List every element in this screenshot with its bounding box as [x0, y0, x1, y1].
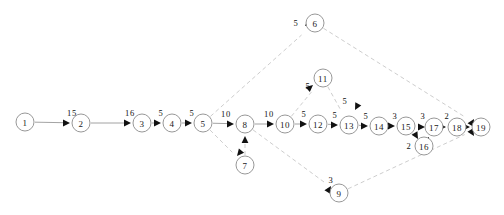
node-label-18: 18 [452, 123, 462, 133]
node-18[interactable]: 18 [448, 118, 466, 136]
arrow-to-8-from-7-icon [242, 136, 249, 143]
edge-5-to-6 [210, 35, 301, 116]
arrow-to-8-icon [227, 121, 234, 128]
node-label-14: 14 [374, 122, 384, 132]
edge-1-to-2 [35, 122, 63, 123]
edge-weight-3-to-4: 5 [159, 108, 164, 118]
node-label-15: 15 [401, 122, 411, 132]
node-label-12: 12 [313, 120, 323, 130]
edge-weight-13-to-14: 5 [364, 111, 369, 121]
edge-weight-5-to-6: 5 [294, 18, 299, 28]
edge-weight-15-to-16: 2 [407, 141, 412, 151]
node-label-13: 13 [344, 121, 354, 131]
edge-11-to-13 [328, 87, 340, 109]
edge-5-to-7 [210, 130, 232, 152]
edge-weight-14-to-15: 3 [393, 111, 398, 121]
arrow-to-12-icon [300, 121, 307, 128]
node-13[interactable]: 13 [340, 116, 358, 134]
node-9[interactable]: 9 [330, 184, 348, 202]
node-4[interactable]: 4 [163, 114, 181, 132]
node-5[interactable]: 5 [194, 114, 212, 132]
nodes-layer: 12345678910111213141516171819 [16, 14, 490, 202]
arrow-to-5-icon [185, 120, 192, 127]
node-3[interactable]: 3 [133, 114, 151, 132]
node-label-6: 6 [312, 19, 317, 29]
node-label-11: 11 [318, 74, 328, 84]
node-1[interactable]: 1 [16, 113, 34, 131]
node-10[interactable]: 10 [276, 115, 294, 133]
arrow-to-14-icon [361, 123, 368, 130]
arrow-to-2-icon [63, 120, 70, 127]
edge-weight-8-to-9: 3 [329, 175, 334, 185]
node-14[interactable]: 14 [370, 117, 388, 135]
diagram-canvas: 12345678910111213141516171819 1516551010… [0, 0, 504, 215]
edge-8-to-9 [253, 130, 324, 182]
node-19[interactable]: 19 [472, 118, 490, 136]
arrow-to-3-icon [124, 120, 131, 127]
node-label-16: 16 [419, 142, 429, 152]
arrow-to-10-icon [267, 121, 274, 128]
arrow-to-13-from-11-icon [352, 102, 361, 111]
graph-svg: 12345678910111213141516171819 1516551010… [0, 0, 504, 215]
edge-weight-1-to-2: 15 [67, 108, 77, 118]
node-label-3: 3 [139, 119, 144, 129]
node-label-5: 5 [200, 119, 205, 129]
node-7[interactable]: 7 [236, 156, 254, 174]
node-label-19: 19 [476, 123, 486, 133]
node-label-17: 17 [429, 123, 439, 133]
node-label-10: 10 [280, 120, 290, 130]
edge-weight-12-to-13: 5 [333, 110, 338, 120]
arrow-to-13-icon [331, 122, 338, 129]
node-16[interactable]: 16 [415, 137, 433, 155]
node-label-8: 8 [242, 120, 247, 130]
node-label-4: 4 [169, 119, 174, 129]
arrowheads-layer [63, 19, 477, 194]
node-label-2: 2 [78, 119, 83, 129]
node-8[interactable]: 8 [236, 115, 254, 133]
node-11[interactable]: 11 [314, 69, 332, 87]
arrow-to-15-icon [388, 123, 395, 130]
edge-weight-5-to-8: 10 [221, 109, 231, 119]
edge-weight-17-to-18: 2 [445, 111, 450, 121]
edge-weight-10-to-12: 5 [302, 109, 307, 119]
node-12[interactable]: 12 [309, 115, 327, 133]
node-label-1: 1 [22, 118, 27, 128]
node-15[interactable]: 15 [397, 117, 415, 135]
node-6[interactable]: 6 [306, 14, 324, 32]
edge-weight-10-to-11: 5 [306, 81, 311, 91]
node-17[interactable]: 17 [425, 118, 443, 136]
arrow-to-4-icon [154, 120, 161, 127]
edge-labels-layer: 151655101055532325355 [67, 18, 449, 185]
node-label-7: 7 [242, 161, 247, 171]
edge-weight-8-to-10: 10 [264, 109, 274, 119]
edge-weight-15-to-17: 3 [421, 111, 426, 121]
edge-weight-2-to-3: 16 [125, 108, 135, 118]
arrow-to-17-from-15-icon [418, 124, 425, 131]
edge-weight-11-to-13: 5 [343, 96, 348, 106]
edge-weight-4-to-5: 5 [190, 108, 195, 118]
node-label-9: 9 [336, 189, 341, 199]
